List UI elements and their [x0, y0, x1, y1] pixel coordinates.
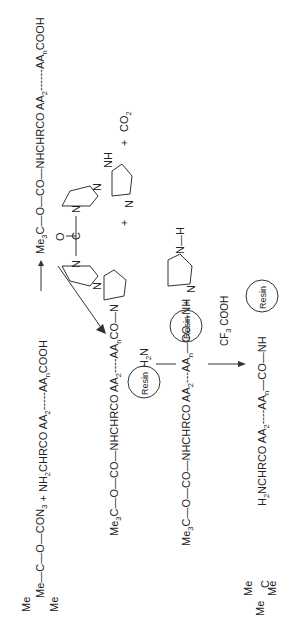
imidazole-ring — [168, 254, 192, 286]
svg-text:O: O — [54, 232, 66, 241]
svg-text:Resin: Resin — [258, 286, 268, 309]
carbonyldiimidazole: O C N N N N — [54, 183, 103, 290]
svg-text:Me: Me — [20, 597, 32, 612]
svg-text:Me: Me — [48, 597, 60, 612]
tert-butyl-azidoformate: Me Me Me C — [242, 580, 278, 616]
svg-text:Resin: Resin — [140, 372, 150, 395]
svg-text:H2N: H2N — [138, 348, 153, 368]
svg-text:N: N — [70, 205, 82, 213]
svg-text:Me3C—O—CO—NHCHRCO AA2------AA: Me3C—O—CO—NHCHRCO AA2------AAnCOOH — [34, 17, 49, 254]
reaction-scheme: Me Me Me C Me—C—O—CON3 + NH2CHRCO AA2---… — [0, 0, 284, 626]
quaternary-carbon: C — [259, 580, 271, 588]
methyl-label: Me — [254, 601, 266, 616]
byproducts: + N NH + CO2 — [102, 111, 135, 226]
row3-resin-bound-peptide: Me3C—O—CO—NHCHRCO AA2---AAn—CO—NH Resin — [170, 299, 202, 546]
svg-text:N: N — [91, 183, 103, 191]
svg-text:NH: NH — [102, 152, 114, 168]
svg-text:Resin: Resin — [182, 316, 192, 339]
tfa-deprotection-step: CF3 COOH — [208, 296, 246, 367]
row4-deprotected-peptide-resin: H2NCHRCO AA2----AAn—CO—NH Resin — [246, 280, 278, 506]
arrow-head-icon — [38, 260, 44, 266]
arrow-head-icon — [96, 324, 106, 334]
svg-text:CF3 COOH: CF3 COOH — [219, 296, 233, 346]
methyl-label: Me — [242, 581, 254, 596]
row1-reactants: Me—C—O—CON3 + NH2CHRCO AA2-----AAnCOOH M… — [20, 340, 60, 612]
svg-text:Me—C—O—CON3 + NH2CHRCO: Me—C—O—CON3 + NH2CHRCO AA2-----AAnCOOH — [34, 340, 52, 598]
row2-imidazole-byproduct: + N N—H — [168, 227, 197, 306]
arrow-head-icon — [238, 361, 246, 367]
imidazole-ring — [112, 164, 132, 196]
reaction-arrow — [58, 266, 100, 326]
row1-product: Me3C—O—CO—NHCHRCO AA2------AAnCOOH — [34, 17, 49, 254]
svg-text:N—H: N—H — [174, 227, 186, 254]
svg-text:N: N — [185, 285, 197, 293]
svg-text:H2NCHRCO AA2----AAn—CO—NH: H2NCHRCO AA2----AAn—CO—NH — [256, 336, 271, 506]
row2-activated-acyl-imidazole: Me3C—O—CO—NHCHRCO AA2----AAnCO—N — [104, 270, 126, 536]
svg-text:C: C — [70, 232, 82, 240]
svg-text:CO2: CO2 — [118, 111, 133, 132]
svg-text:N: N — [91, 282, 103, 290]
amino-resin-reagent: H2N Resin — [128, 348, 176, 398]
svg-text:N: N — [123, 200, 135, 208]
svg-text:N: N — [70, 260, 82, 268]
svg-text:+: + — [118, 220, 130, 226]
imidazole-ring — [104, 270, 126, 300]
svg-text:+: + — [118, 140, 130, 146]
scheme-canvas: Me Me Me C Me—C—O—CON3 + NH2CHRCO AA2---… — [0, 0, 284, 626]
svg-text:Me3C—O—CO—NHCHRCO AA2----AAnC: Me3C—O—CO—NHCHRCO AA2----AAnCO—N — [108, 304, 123, 536]
